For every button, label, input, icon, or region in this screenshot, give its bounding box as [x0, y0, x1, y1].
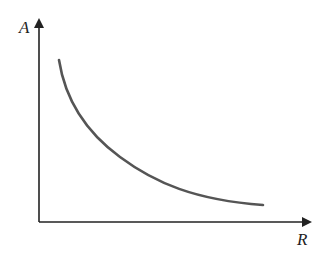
x-axis-label: R: [296, 230, 308, 249]
curve-a-vs-r: [59, 60, 263, 205]
diagram-canvas: A R: [0, 0, 329, 257]
y-axis-label: A: [18, 18, 30, 37]
